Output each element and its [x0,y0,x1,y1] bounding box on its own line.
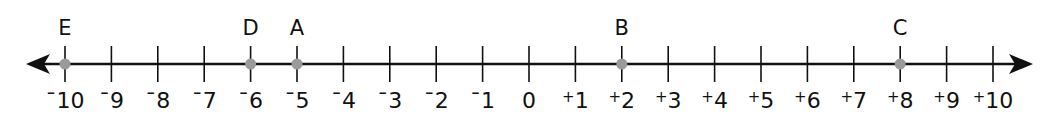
sign: + [562,88,575,106]
point-marker-d [245,59,256,70]
sign: ¯ [470,88,481,113]
sign: + [748,88,761,106]
tick-label: +6 [794,88,821,113]
sign: + [973,88,986,106]
point-label-c: C [893,16,908,40]
sign: ¯ [99,88,110,113]
point-marker-a [292,59,303,70]
tick-number: 1 [481,88,495,113]
tick-number: 8 [899,88,913,113]
point-label-a: A [290,16,304,40]
tick-number: 8 [156,88,170,113]
sign: + [933,88,946,106]
tick-number: 6 [249,88,263,113]
tick-number: 9 [110,88,124,113]
tick-label: +1 [562,88,589,113]
tick-label: +4 [701,88,728,113]
tick-number: 3 [388,88,402,113]
tick-label: ¯7 [192,88,217,113]
tick-label: ¯6 [238,88,263,113]
number-line-diagram: ¯10¯9¯8¯7¯6¯5¯4¯3¯2¯10+1+2+3+4+5+6+7+8+9… [0,0,1059,123]
point-label-e: E [58,16,71,40]
tick-label: +8 [887,88,914,113]
point-marker-b [616,59,627,70]
tick-label: +2 [609,88,636,113]
sign: + [794,88,807,106]
point-marker-c [895,59,906,70]
tick-label: ¯3 [377,88,402,113]
tick-number: 2 [435,88,449,113]
sign: + [701,88,714,106]
tick-number: 5 [296,88,310,113]
tick-number: 10 [985,88,1013,113]
sign: ¯ [331,88,342,113]
tick-label: +9 [933,88,960,113]
tick-label: ¯8 [145,88,170,113]
tick-label: ¯1 [470,88,495,113]
sign: + [609,88,622,106]
tick-label: +3 [655,88,682,113]
tick-label: ¯2 [424,88,449,113]
tick-number: 7 [853,88,867,113]
tick-label: ¯4 [331,88,356,113]
sign: + [841,88,854,106]
sign: ¯ [377,88,388,113]
tick-number: 5 [760,88,774,113]
sign: ¯ [46,88,57,113]
tick-number: 6 [807,88,821,113]
sign: + [655,88,668,106]
tick-label: ¯5 [285,88,310,113]
tick-number: 0 [522,88,536,113]
tick-number: 3 [667,88,681,113]
tick-number: 1 [575,88,589,113]
sign: ¯ [424,88,435,113]
tick-number: 7 [203,88,217,113]
sign: ¯ [238,88,249,113]
sign: ¯ [192,88,203,113]
point-label-b: B [615,16,629,40]
tick-number: 10 [57,88,85,113]
tick-label: +7 [841,88,868,113]
point-label-d: D [243,16,259,40]
tick-label: 0 [522,88,536,113]
tick-label: ¯9 [99,88,124,113]
tick-label: +10 [973,88,1014,113]
tick-number: 4 [342,88,356,113]
tick-number: 4 [714,88,728,113]
tick-number: 2 [621,88,635,113]
sign: + [887,88,900,106]
point-marker-e [60,59,71,70]
tick-label: ¯10 [46,88,85,113]
tick-number: 9 [946,88,960,113]
tick-label: +5 [748,88,775,113]
sign: ¯ [285,88,296,113]
sign: ¯ [145,88,156,113]
